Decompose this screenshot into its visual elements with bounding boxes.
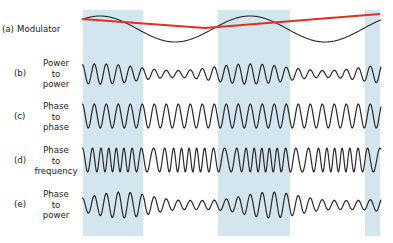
waveform-plot: [0, 0, 393, 243]
cross-frequency-coupling-figure: (a) Modulator (b) Power to power (c) Pha…: [0, 0, 393, 243]
